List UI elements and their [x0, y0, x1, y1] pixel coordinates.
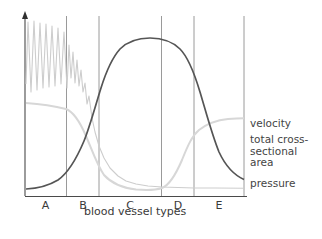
x-axis-title: blood vessel types: [84, 205, 186, 218]
series-label-velocity: velocity: [250, 118, 291, 130]
series-velocity-line: [26, 103, 244, 190]
series-label-pressure: pressure: [250, 178, 295, 190]
x-category-label-e: E: [199, 199, 239, 212]
chart-figure: A B C D E blood vessel types velocity to…: [0, 0, 322, 239]
series-label-area-line1: total cross-: [250, 134, 308, 146]
series-pressure-line: [26, 21, 244, 188]
x-category-label-a: A: [26, 199, 66, 212]
series-label-area-line3: area: [250, 157, 308, 169]
series-label-total-cross-sectional-area: total cross- sectional area: [250, 134, 308, 169]
category-dividers: [67, 16, 245, 196]
series-area-line: [26, 38, 244, 189]
